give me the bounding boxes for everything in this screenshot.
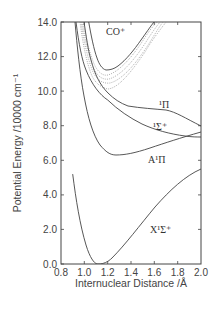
y-axis-label: Potential Energy /10000 cm⁻¹ — [11, 73, 23, 212]
curve-x1sigma — [73, 169, 201, 264]
curve-a1pi — [75, 22, 201, 155]
label-a1pi: A¹Π — [148, 154, 165, 165]
label-1pi: ¹Π — [159, 99, 169, 110]
y-tick: 4.0 — [43, 189, 57, 200]
y-tick: 14.0 — [38, 17, 58, 28]
label-1sigma: ¹Σ⁺ — [153, 121, 167, 132]
curve-1sigma — [76, 22, 201, 137]
curves — [73, 22, 201, 264]
y-tick: 12.0 — [38, 51, 58, 62]
x-tick: 0.8 — [54, 267, 68, 278]
x-axis-label: Internuclear Distance /Å — [75, 277, 187, 289]
y-tick: 6.0 — [43, 155, 57, 166]
y-tick-labels: 0.0 2.0 4.0 6.0 8.0 10.0 12.0 14.0 — [38, 17, 58, 270]
x-tick: 2.0 — [194, 267, 208, 278]
chart: 0.0 2.0 4.0 6.0 8.0 10.0 12.0 14.0 0.8 1… — [0, 0, 217, 309]
y-tick: 10.0 — [38, 86, 58, 97]
label-co-plus: CO⁺ — [106, 26, 125, 37]
y-tick: 8.0 — [43, 120, 57, 131]
y-tick: 2.0 — [43, 224, 57, 235]
label-x1sigma: X¹Σ⁺ — [150, 224, 171, 235]
